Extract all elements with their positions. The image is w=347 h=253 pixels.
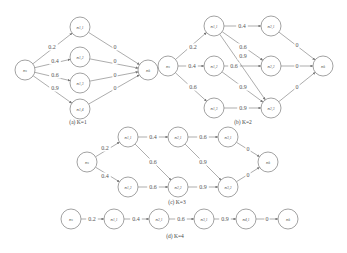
node-label: nk [286,217,291,223]
subfigure-caption-b: (b) K=2 [234,119,252,126]
node-c-n31: n3,1 [218,127,238,147]
node-label: nk [321,64,326,70]
edge-weight-label: 0 [247,172,250,178]
edge-weight-label: 0.4 [132,216,140,222]
edge-weight-label: 0.6 [199,134,207,140]
edge-weight-label: 0.2 [88,216,96,222]
edge-weight-label: 0.4 [188,63,196,69]
edge-weight-label: 0.4 [238,23,246,29]
node-b-n21: n2,1 [261,16,281,36]
edge-weight-label: 0.6 [239,44,247,50]
node-c-n12: n1,2 [118,177,138,197]
edge-weight-label: 0.6 [149,184,157,190]
edge-weight-label: 0.9 [239,105,247,111]
node-label: nk [266,160,271,166]
edge-weight-label: 0.9 [199,159,207,165]
node-label: ns [23,68,28,74]
node-b-ns: ns [158,56,178,76]
node-a-nk: nk [138,60,158,80]
edge-weight-label: 0.2 [189,44,197,50]
node-a-n14: n1,4 [70,99,90,119]
node-d-n31: n3,1 [194,209,214,229]
node-b-n22: n2,2 [261,56,281,76]
edge-weight-label: 0.2 [101,145,109,151]
edge-weight-label: 0.4 [101,173,109,179]
node-label: ns [166,64,171,70]
edge-weight-label: 0 [114,72,117,78]
edge-weight-label: 0.9 [51,85,59,91]
subfigure-caption-c: (c) K=3 [168,199,186,206]
edge-weight-label: 0.4 [51,58,59,64]
node-d-ns: ns [61,209,81,229]
node-b-n13: n1,3 [204,98,224,118]
node-c-n21: n2,1 [168,127,188,147]
node-c-n22: n2,2 [168,177,188,197]
edge-weight-label: 0.9 [199,184,207,190]
edge-weight-label: 0 [247,146,250,152]
edge-weight-label: 0 [296,42,299,48]
node-d-n41: n4,1 [236,209,256,229]
node-c-n32: n3,2 [218,177,238,197]
edge-weight-label: 0.6 [230,63,238,69]
subfigure-caption-d: (d) K=4 [166,233,184,240]
node-a-n13: n1,3 [70,73,90,93]
edge-weight-label: 0.6 [189,84,197,90]
node-b-n12: n1,2 [204,56,224,76]
node-label: nk [146,68,151,74]
edge-weight-label: 0 [114,44,117,50]
edge-weight-label: 0.2 [48,44,56,50]
node-label: ns [85,160,90,166]
node-b-n23: n2,3 [261,98,281,118]
edge-weight-label: 0.6 [51,72,59,78]
node-d-n21: n2,1 [149,209,169,229]
edge-weight-label: 0 [296,63,299,69]
node-a-n11: n1,1 [70,17,90,37]
node-c-n11: n1,1 [118,127,138,147]
edge-weight-label: 0 [266,216,269,222]
node-d-nk: nk [278,209,298,229]
edge-weight-label: 0.6 [177,216,185,222]
edge-weight-label: 0.6 [149,159,157,165]
node-b-nk: nk [313,56,333,76]
nodes-layer: nsn1,1n1,2n1,3n1,4nknsn1,1n1,2n1,3n2,1n2… [15,16,333,229]
edge-weight-label: 0 [296,84,299,90]
edge-weight-label: 0.9 [221,216,229,222]
node-label: ns [69,217,74,223]
subfigure-caption-a: (a) K=1 [69,119,87,126]
edge-weight-label: 0 [114,58,117,64]
node-d-n11: n1,1 [104,209,124,229]
edge-weight-label: 0 [114,85,117,91]
node-b-n11: n1,1 [204,16,224,36]
edge-weight-label: 0.9 [239,84,247,90]
figure-canvas: 0.20.40.60.900000.20.40.60.40.60.90.60.9… [0,0,347,253]
node-a-ns: ns [15,60,35,80]
edge-weight-label: 0.4 [149,134,157,140]
node-c-nk: nk [258,152,278,172]
edge-weight-label: 0.9 [239,53,247,59]
node-c-ns: ns [77,152,97,172]
node-a-n12: n1,2 [70,47,90,67]
